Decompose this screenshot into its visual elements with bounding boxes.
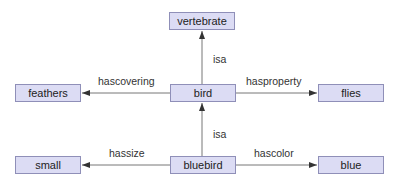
edge-label-hascovering: hascovering	[98, 76, 155, 87]
edge-label-isa-top: isa	[213, 54, 226, 65]
node-small: small	[15, 156, 81, 174]
edge-label-hascolor: hascolor	[254, 148, 294, 159]
node-flies: flies	[318, 84, 384, 102]
edge-label-hassize: hassize	[109, 148, 145, 159]
edge-label-hasproperty: hasproperty	[246, 76, 301, 87]
node-blue: blue	[318, 156, 384, 174]
node-vertebrate: vertebrate	[169, 12, 235, 30]
node-feathers: feathers	[15, 84, 81, 102]
node-bluebird: bluebird	[170, 156, 236, 174]
edge-label-isa-bottom: isa	[213, 129, 226, 140]
node-bird: bird	[170, 84, 236, 102]
